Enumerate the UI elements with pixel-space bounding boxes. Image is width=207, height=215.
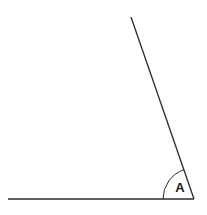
angle-diagram: A: [0, 0, 207, 215]
slanted-ray: [131, 17, 194, 199]
angle-label: A: [175, 180, 185, 195]
